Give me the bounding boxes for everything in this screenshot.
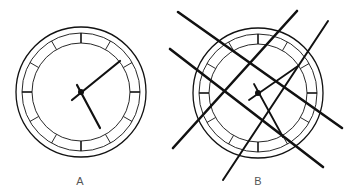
hour-tick: [106, 41, 111, 50]
hour-tick: [123, 117, 132, 122]
hour-tick: [30, 63, 39, 68]
clock-a-intact: [16, 27, 146, 157]
hand-pivot: [255, 90, 261, 96]
hour-tick: [106, 134, 111, 143]
hour-tick: [229, 135, 234, 144]
hour-tick: [207, 64, 216, 69]
hand-pivot: [78, 89, 84, 95]
hour-tick: [52, 41, 57, 50]
hour-tick: [30, 117, 39, 122]
label-a: A: [76, 175, 83, 187]
hour-tick: [52, 134, 57, 143]
clock-b-occluded: [170, 11, 342, 180]
hour-tick: [123, 63, 132, 68]
hour-tick: [300, 118, 309, 123]
hour-tick: [207, 118, 216, 123]
hour-tick: [283, 42, 288, 51]
occluding-line: [178, 12, 342, 128]
label-b: B: [254, 175, 261, 187]
hour-tick: [300, 64, 309, 69]
clock-diagram: [0, 0, 355, 194]
